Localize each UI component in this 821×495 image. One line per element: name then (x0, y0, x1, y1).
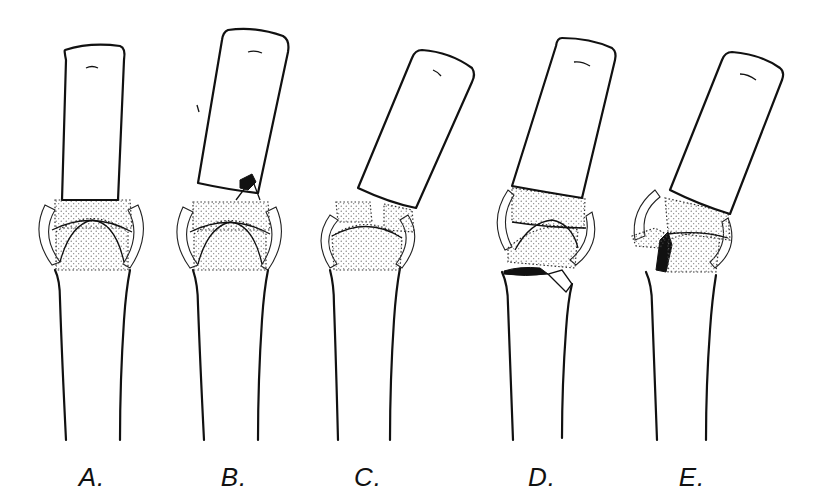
joint-injury-figure: A. B. C. D. E. (0, 0, 821, 495)
joint-drawings (0, 0, 821, 495)
panel-label-e: E. (679, 462, 706, 493)
panel-label-d: D. (528, 462, 556, 493)
panel-label-a: A. (79, 462, 106, 493)
panel-label-c: C. (354, 462, 382, 493)
panel-label-b: B. (221, 462, 248, 493)
panel-e-drawing (632, 52, 783, 440)
panel-a-drawing (39, 45, 144, 440)
panel-b-drawing (177, 29, 289, 440)
panel-c-drawing (321, 50, 474, 440)
panel-d-drawing (497, 38, 615, 440)
